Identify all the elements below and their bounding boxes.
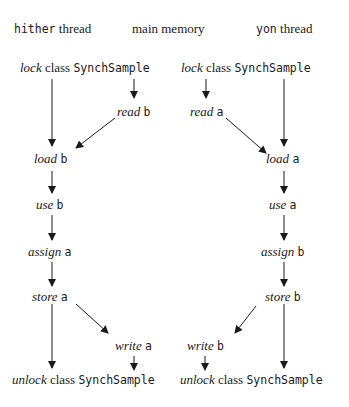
action: write	[187, 338, 214, 353]
action: store	[32, 289, 58, 304]
code: b	[217, 339, 224, 353]
action: load	[34, 151, 57, 166]
memory-text: main memory	[132, 21, 205, 36]
node-yon-use: use a	[269, 197, 297, 213]
code: SynchSample	[246, 373, 322, 387]
arrow-read-a-to-load-a	[226, 118, 266, 153]
node-memory-read-a: read a	[190, 104, 224, 120]
arrow-store-a-to-write-a	[76, 304, 108, 333]
text: class	[42, 60, 74, 75]
node-hither-assign: assign a	[28, 244, 71, 260]
header-main-memory: main memory	[132, 21, 205, 37]
action: store	[265, 289, 291, 304]
node-yon-load: load a	[266, 151, 299, 167]
code: SynchSample	[78, 373, 154, 387]
code: a	[61, 290, 68, 304]
hither-code: hither	[14, 22, 56, 36]
code: a	[217, 105, 224, 119]
action: assign	[261, 244, 294, 259]
code: a	[290, 198, 297, 212]
action: use	[36, 197, 53, 212]
action: read	[190, 104, 213, 119]
yon-code: yon	[256, 22, 277, 36]
code: a	[145, 339, 152, 353]
action: assign	[28, 244, 61, 259]
node-yon-lock: lock class SynchSample	[181, 60, 311, 76]
action: write	[115, 338, 142, 353]
text: class	[215, 372, 247, 387]
node-yon-store: store b	[265, 289, 301, 305]
node-hither-load: load b	[34, 151, 67, 167]
action: unlock	[180, 372, 215, 387]
action: lock	[20, 60, 42, 75]
node-hither-use: use b	[36, 197, 64, 213]
action: lock	[181, 60, 203, 75]
action: use	[269, 197, 286, 212]
node-memory-write-a: write a	[115, 338, 152, 354]
yon-text: thread	[277, 21, 313, 36]
arrow-read-b-to-load-b	[76, 118, 115, 148]
code: b	[297, 245, 304, 259]
node-yon-assign: assign b	[261, 244, 304, 260]
text: class	[47, 372, 79, 387]
node-hither-store: store a	[32, 289, 68, 305]
node-hither-unlock: unlock class SynchSample	[12, 372, 155, 388]
code: a	[292, 152, 299, 166]
code: b	[144, 105, 151, 119]
action: read	[117, 104, 140, 119]
action: load	[266, 151, 289, 166]
node-memory-read-b: read b	[117, 104, 151, 120]
node-hither-lock: lock class SynchSample	[20, 60, 150, 76]
text: class	[203, 60, 235, 75]
hither-text: thread	[56, 21, 92, 36]
arrow-store-b-to-write-b	[235, 306, 256, 333]
code: SynchSample	[73, 61, 149, 75]
node-memory-write-b: write b	[187, 338, 224, 354]
code: b	[294, 290, 301, 304]
node-yon-unlock: unlock class SynchSample	[180, 372, 323, 388]
action: unlock	[12, 372, 47, 387]
code: SynchSample	[234, 61, 310, 75]
code: b	[60, 152, 67, 166]
header-hither-thread: hither thread	[14, 21, 91, 37]
header-yon-thread: yon thread	[256, 21, 313, 37]
code: a	[64, 245, 71, 259]
code: b	[57, 198, 64, 212]
